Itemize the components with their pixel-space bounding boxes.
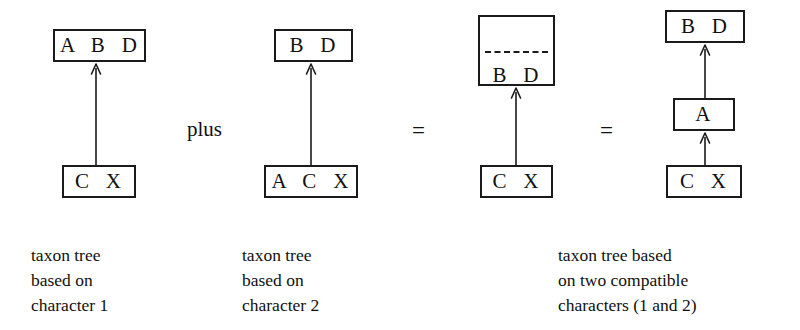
tree1-bottom-box-label: C X <box>75 171 123 192</box>
tree3-top-box-split: B D A <box>478 15 555 86</box>
tree3-arrow-up <box>509 86 523 166</box>
tree2-top-box-label: B D <box>289 35 337 56</box>
tree1-arrow-up <box>89 62 103 166</box>
figure-canvas: A B D C X taxon tree based on character … <box>0 0 800 330</box>
tree1-top-box-label: A B D <box>60 35 139 56</box>
operator-equals-first: = <box>412 119 425 142</box>
caption-character-1: taxon tree based on character 1 <box>31 243 201 318</box>
caption-combined: taxon tree based on two compatible chara… <box>558 243 793 318</box>
tree4-middle-box: A <box>673 98 735 131</box>
tree4-top-box: B D <box>665 10 745 43</box>
caption-character-2: taxon tree based on character 2 <box>242 243 412 318</box>
tree4-bottom-box: C X <box>666 165 742 198</box>
compatibility-dashed-divider <box>485 51 548 53</box>
tree3-top-box-upper-label: B D <box>492 65 540 86</box>
tree2-bottom-box-label: A C X <box>272 171 351 192</box>
operator-plus: plus <box>187 119 222 140</box>
tree4-middle-box-label: A <box>695 104 712 125</box>
tree2-arrow-up <box>304 62 318 166</box>
tree3-bottom-box: C X <box>480 165 553 198</box>
tree4-arrow-upper <box>698 43 712 98</box>
tree4-bottom-box-label: C X <box>680 171 728 192</box>
tree4-top-box-label: B D <box>681 16 729 37</box>
tree2-bottom-box: A C X <box>264 165 358 198</box>
tree4-arrow-lower <box>698 131 712 165</box>
tree2-top-box: B D <box>274 29 353 62</box>
operator-equals-second: = <box>600 119 613 142</box>
tree3-bottom-box-label: C X <box>492 171 540 192</box>
tree1-top-box: A B D <box>53 29 146 62</box>
tree1-bottom-box: C X <box>62 165 136 198</box>
